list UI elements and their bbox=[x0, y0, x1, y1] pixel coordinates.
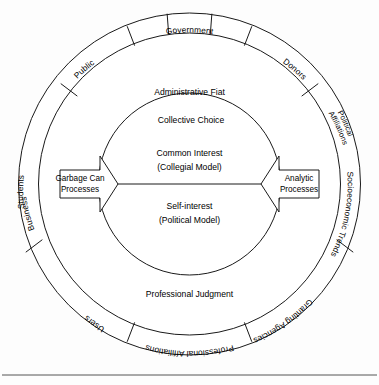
core-lower-line2: (Political Model) bbox=[159, 215, 220, 225]
inner-boundary-label-group: Collective Choice bbox=[146, 113, 236, 126]
band-label-administrative-fiat: Administrative Fiat bbox=[154, 87, 225, 97]
concentric-model-figure: Business Public Government Donors Politi… bbox=[0, 0, 379, 385]
garbage-can-arrow-line1: Garbage Can bbox=[55, 174, 105, 183]
analytic-arrow-line1: Analytic bbox=[285, 174, 314, 183]
diagram-canvas: Business Public Government Donors Politi… bbox=[0, 0, 379, 385]
core-upper-line2: (Collegial Model) bbox=[157, 162, 222, 172]
analytic-arrow-line2: Processes bbox=[280, 185, 318, 194]
core-upper-line1: Common Interest bbox=[157, 148, 224, 158]
band-label-professional-judgment: Professional Judgment bbox=[146, 289, 234, 299]
core-lower-line1: Self-interest bbox=[167, 201, 213, 211]
outer-label-students[interactable]: Students bbox=[15, 174, 26, 209]
garbage-can-arrow-line2: Processes bbox=[61, 185, 99, 194]
inner-boundary-label-collective-choice: Collective Choice bbox=[158, 115, 225, 125]
